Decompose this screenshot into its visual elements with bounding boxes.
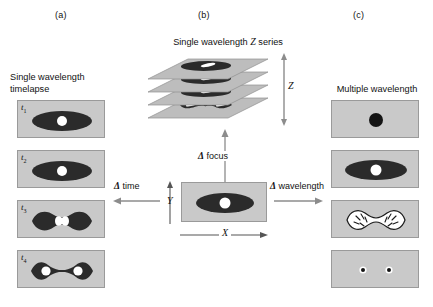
caption-multiwavelength: Multiple wavelength xyxy=(322,84,432,96)
wavelength-frame-4 xyxy=(331,250,419,288)
channel-shape-chromosomes xyxy=(332,201,419,238)
timepoint-label-t1: t1 xyxy=(21,102,27,114)
timelapse-frame-t4: t4 xyxy=(17,250,105,288)
x-axis-label: X xyxy=(219,227,231,238)
timepoint-label-t4: t4 xyxy=(21,252,27,264)
panel-label-a: (a) xyxy=(55,10,67,20)
center-frame-xy xyxy=(181,182,267,222)
zstack-slices xyxy=(140,52,310,127)
cell-shape-t1 xyxy=(18,101,105,138)
wavelength-frame-3 xyxy=(331,200,419,238)
time-arrow-label: Δ time xyxy=(114,181,140,191)
z-axis-label: Z xyxy=(288,80,294,91)
channel-shape-nucleus xyxy=(332,101,419,138)
cell-shape-center xyxy=(182,183,267,222)
timelapse-frame-t2: t2 xyxy=(17,150,105,188)
caption-zseries: Single wavelength Z series xyxy=(148,36,308,49)
panel-label-b: (b) xyxy=(198,10,210,20)
wavelength-frame-2 xyxy=(331,150,419,188)
timepoint-label-t3: t3 xyxy=(21,202,27,214)
focus-arrow-label: Δ focus xyxy=(196,151,230,161)
z-axis-arrow xyxy=(281,53,287,126)
timelapse-frame-t1: t1 xyxy=(17,100,105,138)
channel-shape-centrosomes xyxy=(332,251,419,288)
channel-shape-cellbody xyxy=(332,151,419,188)
wavelength-arrow-label: Δ wavelength xyxy=(270,181,324,191)
cell-shape-t4 xyxy=(18,251,105,288)
cell-shape-t3 xyxy=(18,201,105,238)
y-axis-label: Y xyxy=(167,195,173,206)
timelapse-frame-t3: t3 xyxy=(17,200,105,238)
timepoint-label-t2: t2 xyxy=(21,152,27,164)
caption-timelapse: Single wavelength timelapse xyxy=(10,72,125,95)
wavelength-arrow xyxy=(272,194,324,208)
cell-shape-t2 xyxy=(18,151,105,188)
wavelength-frame-1 xyxy=(331,100,419,138)
panel-label-c: (c) xyxy=(353,10,364,20)
time-arrow xyxy=(112,194,164,208)
figure-root: (a) (b) (c) Single wavelength timelapse … xyxy=(0,0,433,307)
